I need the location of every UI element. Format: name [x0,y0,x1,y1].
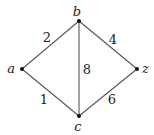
edge-weight-label: 6 [108,92,116,107]
edge-weight-label: 4 [109,32,117,47]
node-b [77,19,81,23]
edge-a-b [22,21,79,69]
node-label: c [74,119,82,134]
edge-weight-label: 1 [40,92,48,107]
node-label: a [7,61,15,76]
node-label: b [73,4,81,19]
node-c [77,114,81,118]
node-label: z [141,61,149,76]
edge-weight-label: 2 [43,30,51,45]
edges: 24816 [22,21,137,116]
edge-a-c [22,69,79,116]
node-z [135,67,139,71]
edge-weight-label: 8 [83,62,91,77]
nodes: abzc [7,4,149,134]
weighted-graph: 24816 abzc [0,0,154,135]
node-a [20,67,24,71]
